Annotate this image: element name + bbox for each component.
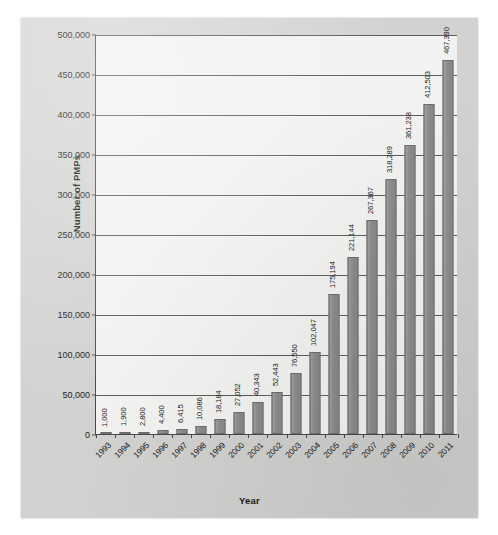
bar-value-label: 27,052: [233, 384, 242, 407]
x-axis-tick-label: 1999: [207, 440, 227, 460]
bar-slot: 6,4151997: [172, 35, 191, 434]
x-axis-tick-label: 2010: [417, 440, 437, 460]
x-axis-tick-mark: [96, 434, 97, 438]
bar[interactable]: [291, 373, 302, 434]
bar-value-label: 102,047: [309, 320, 318, 347]
y-axis-tick-label: 150,000: [57, 310, 90, 320]
chart-card: Number of PMPs 050,000100,000150,000200,…: [21, 18, 478, 518]
y-axis-tick-label: 450,000: [57, 70, 90, 80]
bar-value-label: 18,184: [214, 391, 223, 414]
x-axis-tick-mark: [306, 434, 307, 438]
bar-value-label: 361,238: [405, 112, 414, 139]
bar[interactable]: [405, 145, 416, 434]
bar[interactable]: [310, 352, 321, 434]
bar-slot: 40,3432001: [248, 35, 267, 434]
x-axis-tick-mark: [134, 434, 135, 438]
bar-value-label: 221,144: [348, 224, 357, 251]
bar[interactable]: [367, 220, 378, 434]
x-axis-tick-label: 2001: [245, 440, 265, 460]
bar[interactable]: [252, 402, 263, 434]
bar-value-label: 467,390: [443, 27, 452, 54]
bar-value-label: 1,900: [119, 408, 128, 427]
x-axis-tick-mark: [210, 434, 211, 438]
x-axis-tick-mark: [458, 434, 459, 438]
x-axis-tick-mark: [325, 434, 326, 438]
x-axis-tick-label: 2002: [264, 440, 284, 460]
bar-slot: 10,0861998: [191, 35, 210, 434]
x-axis-tick-mark: [229, 434, 230, 438]
bar-value-label: 412,503: [424, 71, 433, 98]
y-axis-tick-label: 400,000: [57, 110, 90, 120]
x-axis-title: Year: [21, 495, 478, 506]
x-axis-tick-mark: [382, 434, 383, 438]
x-axis-tick-label: 1993: [93, 440, 113, 460]
x-axis-tick-label: 2000: [226, 440, 246, 460]
bar-value-label: 318,289: [386, 147, 395, 174]
x-axis-tick-label: 2011: [436, 440, 456, 460]
plot-area: 050,000100,000150,000200,000250,000300,0…: [95, 35, 457, 435]
bar-slot: 267,3672007: [363, 35, 382, 434]
bar-value-label: 10,086: [195, 397, 204, 420]
y-axis-tick-label: 100,000: [57, 350, 90, 360]
x-axis-tick-label: 2003: [283, 440, 303, 460]
x-axis-tick-label: 2004: [302, 440, 322, 460]
bar[interactable]: [100, 432, 111, 434]
bar-slot: 2,8001995: [134, 35, 153, 434]
bar-slot: 361,2382009: [401, 35, 420, 434]
x-axis-tick-mark: [153, 434, 154, 438]
x-axis-tick-mark: [420, 434, 421, 438]
x-axis-tick-mark: [344, 434, 345, 438]
x-axis-tick-label: 2008: [378, 440, 398, 460]
bar-slot: 1,9001994: [115, 35, 134, 434]
bar-slot: 1,0001993: [96, 35, 115, 434]
x-axis-tick-mark: [191, 434, 192, 438]
x-axis-tick-mark: [248, 434, 249, 438]
bar-slot: 412,5032010: [420, 35, 439, 434]
bar[interactable]: [386, 179, 397, 434]
bar[interactable]: [424, 104, 435, 434]
bar[interactable]: [214, 419, 225, 434]
bar-value-label: 4,400: [157, 406, 166, 425]
x-axis-tick-label: 1996: [150, 440, 170, 460]
x-axis-tick-mark: [287, 434, 288, 438]
bar[interactable]: [443, 60, 454, 434]
bar-value-label: 52,443: [271, 363, 280, 386]
bar-value-label: 175,194: [329, 261, 338, 288]
bar-value-label: 40,343: [252, 373, 261, 396]
x-axis-tick-mark: [172, 434, 173, 438]
bar-value-label: 267,367: [367, 187, 376, 214]
y-axis-tick-label: 50,000: [62, 390, 90, 400]
bar[interactable]: [138, 432, 149, 434]
x-axis-tick-mark: [401, 434, 402, 438]
x-axis-tick-label: 2007: [359, 440, 379, 460]
x-axis-tick-label: 1997: [169, 440, 189, 460]
bar-value-label: 1,000: [100, 408, 109, 427]
bar[interactable]: [233, 412, 244, 434]
x-axis-tick-label: 2006: [340, 440, 360, 460]
bar-value-label: 2,800: [138, 407, 147, 426]
y-axis-tick-label: 500,000: [57, 30, 90, 40]
bar[interactable]: [195, 426, 206, 434]
bar-slot: 318,2892008: [382, 35, 401, 434]
x-axis-tick-mark: [115, 434, 116, 438]
bar[interactable]: [157, 430, 168, 434]
bar-slot: 18,1841999: [210, 35, 229, 434]
bar[interactable]: [176, 429, 187, 434]
bar-series: 1,00019931,90019942,80019954,40019966,41…: [96, 35, 457, 434]
bar[interactable]: [271, 392, 282, 434]
y-axis-tick-label: 250,000: [57, 230, 90, 240]
x-axis-tick-mark: [439, 434, 440, 438]
x-axis-tick-label: 2005: [321, 440, 341, 460]
x-axis-tick-label: 1998: [188, 440, 208, 460]
y-axis-tick-label: 0: [85, 430, 90, 440]
bar-slot: 76,5502003: [287, 35, 306, 434]
bar-slot: 52,4432002: [267, 35, 286, 434]
plot-wrapper: 050,000100,000150,000200,000250,000300,0…: [95, 35, 457, 435]
bar[interactable]: [329, 294, 340, 434]
bar-value-label: 76,550: [290, 344, 299, 367]
bar[interactable]: [119, 432, 130, 434]
x-axis-tick-mark: [363, 434, 364, 438]
y-axis-tick-label: 350,000: [57, 150, 90, 160]
chart-page: Number of PMPs 050,000100,000150,000200,…: [0, 0, 498, 535]
bar[interactable]: [348, 257, 359, 434]
